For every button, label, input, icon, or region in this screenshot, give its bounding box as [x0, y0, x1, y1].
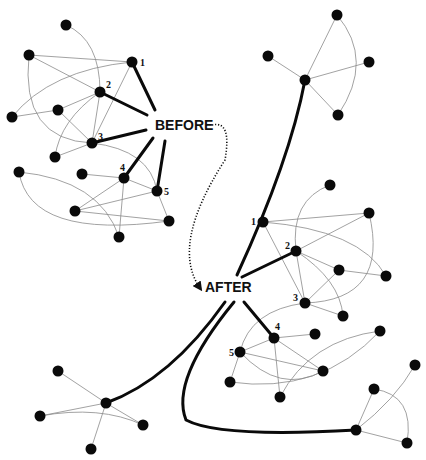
before-to-after-arrow — [189, 124, 226, 288]
node-number-label: 2 — [106, 79, 111, 90]
thin-edge — [240, 338, 274, 352]
graph-node — [410, 360, 421, 371]
graph-node — [332, 10, 343, 21]
thin-edge — [29, 55, 100, 92]
graph-node — [53, 366, 64, 377]
graph-node — [7, 112, 18, 123]
graph-node — [152, 186, 163, 197]
thin-edges — [12, 15, 415, 449]
thin-edge — [274, 338, 323, 371]
graph-node — [53, 105, 64, 116]
thin-edge — [91, 403, 106, 449]
thin-edge — [19, 172, 119, 237]
thin-edge — [263, 222, 386, 276]
thin-edge — [240, 352, 323, 371]
graph-node — [291, 246, 302, 257]
thin-edge — [356, 389, 374, 430]
thin-edge — [28, 55, 92, 143]
graph-node — [164, 216, 175, 227]
graph-node — [225, 377, 236, 388]
graph-node — [87, 138, 98, 149]
thin-edge — [230, 331, 380, 384]
after-label: AFTER — [205, 279, 252, 295]
graph-node — [364, 208, 375, 219]
graph-node — [14, 167, 25, 178]
node-number-label: 5 — [229, 347, 234, 358]
graph-node — [318, 366, 329, 377]
graph-node — [95, 87, 106, 98]
node-number-label: 1 — [251, 216, 256, 227]
node-number-label: 2 — [285, 240, 290, 251]
thin-edge — [75, 178, 124, 211]
thin-edge — [29, 55, 132, 62]
thin-edge — [305, 270, 339, 303]
graph-node — [364, 57, 375, 68]
thin-edge — [268, 56, 305, 80]
thin-edge — [305, 15, 337, 80]
graph-node — [61, 20, 72, 31]
graph-node — [402, 438, 413, 449]
thin-edge — [274, 338, 280, 397]
thin-edge — [58, 92, 100, 110]
thin-edge — [356, 430, 407, 443]
graph-node — [77, 169, 88, 180]
graph-node — [310, 329, 321, 340]
graph-node — [334, 265, 345, 276]
graph-node — [351, 425, 362, 436]
graph-node — [300, 75, 311, 86]
thin-edge — [339, 270, 386, 276]
graph-node — [50, 152, 61, 163]
graph-node — [275, 392, 286, 403]
node-number-label: 3 — [98, 131, 103, 142]
thin-edge — [119, 178, 124, 237]
graph-node — [35, 411, 46, 422]
thin-edge — [356, 365, 415, 430]
graph-node — [127, 57, 138, 68]
before-label: BEFORE — [155, 117, 213, 133]
thin-edge — [55, 143, 92, 157]
thick-edge — [157, 141, 165, 191]
thin-edge — [305, 80, 338, 115]
thick-edge — [132, 62, 155, 110]
thin-edge — [374, 389, 408, 443]
node-number-label: 4 — [275, 321, 280, 332]
thin-edge — [280, 331, 380, 397]
graph-node — [101, 398, 112, 409]
graph-node — [119, 173, 130, 184]
node-number-label: 4 — [120, 162, 125, 173]
node-number-label: 3 — [293, 292, 298, 303]
thin-edge — [106, 403, 143, 425]
thin-edge — [296, 213, 369, 251]
thin-edge — [75, 211, 169, 221]
thin-edge — [305, 62, 369, 80]
graph-node — [258, 217, 269, 228]
graph-node — [300, 298, 311, 309]
thin-edge — [58, 371, 106, 403]
graph-node — [138, 420, 149, 431]
graph-node — [86, 444, 97, 455]
thin-edge — [58, 110, 92, 143]
graph-node — [235, 347, 246, 358]
thick-edge — [106, 302, 225, 403]
graph-node — [369, 384, 380, 395]
thin-edge — [82, 174, 124, 178]
thick-edge — [100, 92, 147, 115]
thick-edge — [242, 251, 296, 277]
graph-node — [375, 326, 386, 337]
thick-edges — [92, 62, 356, 432]
thin-edge — [305, 303, 343, 316]
graph-node — [333, 110, 344, 121]
thin-edge — [305, 213, 373, 303]
thin-edge — [40, 412, 143, 425]
thin-edge — [12, 62, 132, 117]
graph-node — [24, 50, 35, 61]
thin-edge — [263, 213, 369, 222]
graph-node — [338, 311, 349, 322]
graph-node — [325, 180, 336, 191]
thin-edge — [274, 334, 315, 338]
thin-edge — [296, 251, 339, 270]
diagram-canvas: 1234512345 BEFORE AFTER — [0, 0, 426, 460]
thin-edge — [240, 352, 323, 380]
node-number-label: 1 — [140, 57, 145, 68]
thick-edge — [124, 138, 153, 178]
